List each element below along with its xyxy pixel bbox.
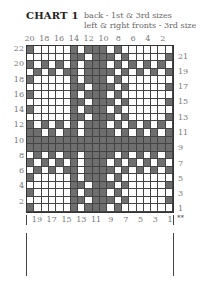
- chart-cell: [64, 197, 71, 205]
- chart-cell: [85, 91, 92, 99]
- chart-cell: [100, 99, 107, 107]
- chart-cell: [144, 137, 151, 145]
- chart-cell: [122, 152, 129, 160]
- chart-subtitle-line1: back - 1st & 3rd sizes: [84, 11, 172, 20]
- chart-cell: [107, 114, 114, 122]
- axis-label: 15: [59, 215, 74, 224]
- chart-cell: [122, 69, 129, 77]
- chart-cell: [115, 76, 122, 84]
- chart-cell: [93, 46, 100, 54]
- chart-cell: [85, 129, 92, 137]
- chart-cell: [144, 69, 151, 77]
- chart-cell: [85, 189, 92, 197]
- chart-cell: [107, 129, 114, 137]
- chart-cell: [42, 204, 49, 212]
- chart-cell: [166, 99, 173, 107]
- chart-cell: [64, 46, 71, 54]
- axis-label: 3: [148, 215, 163, 224]
- chart-cell: [34, 144, 41, 152]
- axis-label: 4: [140, 34, 155, 43]
- chart-cell: [129, 91, 136, 99]
- chart-cell: [151, 121, 158, 129]
- top-stitch-labels: 2018161412108642: [26, 34, 174, 44]
- chart-cell: [122, 99, 129, 107]
- chart-cell: [85, 167, 92, 175]
- chart-cell: [34, 159, 41, 167]
- chart-cell: [151, 152, 158, 160]
- chart-cell: [85, 114, 92, 122]
- chart-cell: [137, 197, 144, 205]
- chart-cell: [137, 46, 144, 54]
- chart-cell: [115, 61, 122, 69]
- chart-cell: [56, 91, 63, 99]
- right-row-labels: 21191715131197531: [176, 45, 196, 213]
- chart-cell: [85, 61, 92, 69]
- axis-label: 19: [178, 67, 188, 76]
- chart-cell: [34, 106, 41, 114]
- chart-cell: [49, 46, 56, 54]
- axis-label: 14: [14, 105, 24, 114]
- chart-cell: [49, 182, 56, 190]
- axis-label: 1: [178, 204, 183, 213]
- chart-cell: [166, 76, 173, 84]
- chart-cell: [42, 174, 49, 182]
- chart-cell: [107, 91, 114, 99]
- chart-cell: [27, 144, 34, 152]
- chart-cell: [42, 99, 49, 107]
- chart-cell: [158, 114, 165, 122]
- chart-cell: [93, 76, 100, 84]
- chart-cell: [144, 99, 151, 107]
- chart-cell: [27, 204, 34, 212]
- chart-cell: [27, 46, 34, 54]
- chart-cell: [34, 76, 41, 84]
- axis-label: 2: [155, 34, 170, 43]
- chart-cell: [49, 91, 56, 99]
- chart-cell: [27, 84, 34, 92]
- chart-cell: [56, 159, 63, 167]
- chart-cell: [151, 137, 158, 145]
- chart-cell: [42, 69, 49, 77]
- chart-cell: [115, 129, 122, 137]
- chart-cell: [166, 84, 173, 92]
- chart-cell: [115, 46, 122, 54]
- chart-cell: [129, 167, 136, 175]
- chart-cell: [64, 69, 71, 77]
- chart-cell: [34, 204, 41, 212]
- chart-cell: [151, 174, 158, 182]
- chart-cell: [71, 99, 78, 107]
- chart-cell: [115, 159, 122, 167]
- chart-cell: [151, 144, 158, 152]
- chart-cell: [137, 167, 144, 175]
- chart-cell: [158, 76, 165, 84]
- chart-cell: [27, 91, 34, 99]
- chart-cell: [166, 204, 173, 212]
- chart-cell: [27, 197, 34, 205]
- chart-cell: [93, 129, 100, 137]
- chart-cell: [166, 106, 173, 114]
- chart-cell: [144, 84, 151, 92]
- chart-cell: [129, 106, 136, 114]
- chart-cell: [107, 167, 114, 175]
- chart-cell: [49, 189, 56, 197]
- axis-label: 1: [163, 215, 178, 224]
- chart-cell: [56, 54, 63, 62]
- chart-cell: [151, 159, 158, 167]
- chart-cell: [42, 54, 49, 62]
- chart-cell: [158, 46, 165, 54]
- chart-cell: [78, 182, 85, 190]
- chart-cell: [166, 182, 173, 190]
- chart-cell: [71, 129, 78, 137]
- chart-cell: [93, 152, 100, 160]
- chart-cell: [85, 152, 92, 160]
- chart-cell: [107, 69, 114, 77]
- chart-cell: [42, 91, 49, 99]
- chart-cell: [158, 69, 165, 77]
- chart-cell: [122, 204, 129, 212]
- chart-cell: [64, 137, 71, 145]
- chart-cell: [85, 121, 92, 129]
- chart-cell: [144, 167, 151, 175]
- axis-label: 9: [103, 215, 118, 224]
- chart-cell: [144, 76, 151, 84]
- chart-cell: [122, 137, 129, 145]
- chart-cell: [64, 61, 71, 69]
